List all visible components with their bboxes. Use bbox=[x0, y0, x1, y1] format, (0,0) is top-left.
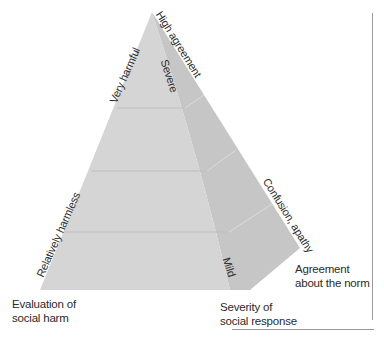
axis-label-evaluation-line1: Evaluation of bbox=[12, 298, 76, 311]
axis-label-agreement-line1: Agreement bbox=[295, 263, 349, 276]
bottom-border-rule bbox=[232, 329, 374, 330]
axis-label-severity-line1: Severity of bbox=[220, 301, 272, 314]
right-border-rule bbox=[372, 13, 373, 320]
axis-label-severity-line2: social response bbox=[220, 315, 297, 328]
axis-label-evaluation-line2: social harm bbox=[12, 312, 69, 325]
axis-label-agreement-line2: about the norm bbox=[295, 277, 370, 290]
